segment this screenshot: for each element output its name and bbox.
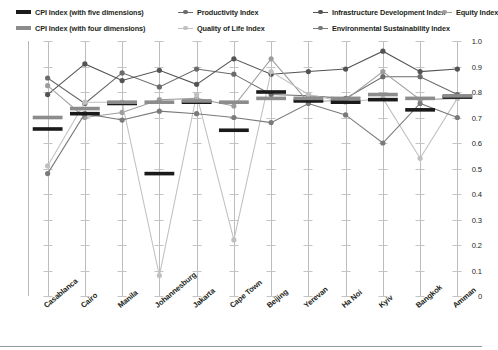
legend-line-marker-icon [178,9,193,16]
data-point [45,171,50,176]
data-point [157,68,162,73]
y-tick-label: 0.8 [458,88,482,97]
y-tick-label: 1.0 [458,37,482,46]
data-point [269,120,274,125]
data-point [45,92,50,97]
legend-item-2[interactable]: Infrastructure Development Index [313,6,445,18]
data-point [82,100,87,105]
data-point [418,156,423,161]
plot-area: 1.00.90.80.70.60.50.40.30.20.10 Casablan… [0,33,482,350]
data-point [194,92,199,97]
data-point [157,273,162,278]
plot-frame [28,41,476,296]
legend-bar-swatch-icon [16,26,31,29]
data-point [120,78,125,83]
legend-item-label: Infrastructure Development Index [332,8,445,17]
data-point [380,69,385,74]
data-point [306,69,311,74]
cpi-bar-marker [33,116,63,120]
legend-item-label: Equity Index [456,8,498,17]
data-point [380,140,385,145]
data-point [418,101,423,106]
data-point [306,92,311,97]
data-point [231,103,236,108]
data-point [45,75,50,80]
data-point [231,72,236,77]
data-point [45,163,50,168]
y-tick-label: 0.5 [458,164,482,173]
cpi-bar-marker [107,100,137,104]
cpi-bar-marker [182,99,212,103]
legend-item-label: Environmental Sustainability Index [332,24,450,33]
data-point [157,84,162,89]
cpi-bar-marker [405,97,435,101]
data-point [380,74,385,79]
cpi-bar-marker [368,98,398,102]
series-line [48,59,458,118]
legend-item-label: Productivity Index [197,8,258,17]
cpi-bar-marker [405,108,435,112]
data-point [269,56,274,61]
legend-item-label: Quality of Life Index [197,24,265,33]
cpi-bar-marker [219,100,249,104]
data-point [418,69,423,74]
y-tick-label: 0.1 [458,266,482,275]
data-point [231,56,236,61]
cpi-bar-marker [256,90,286,94]
series-cpi-index-with-five-dimensions [33,90,473,175]
y-tick-label: 0.7 [458,113,482,122]
cpi-bar-marker [70,112,100,116]
data-point [120,117,125,122]
cpi-bar-marker [368,93,398,97]
series-infrastructure-development-index [45,49,460,98]
legend-item-0[interactable]: CPI Index (with five dimensions) [16,6,144,18]
data-point [157,109,162,114]
data-point [380,49,385,54]
legend-line-marker-icon [313,25,328,32]
cpi-bar-marker [331,97,361,101]
series-line [48,51,458,94]
chart-legend: CPI Index (with five dimensions)Producti… [0,0,482,33]
legend-item-label: CPI Index (with four dimensions) [35,24,145,33]
y-tick-label: 0.6 [458,139,482,148]
y-tick-label: 0.2 [458,241,482,250]
data-point [82,61,87,66]
cpi-bar-marker [70,107,100,111]
cpi-bar-marker [219,128,249,132]
cpi-bar-marker [293,97,323,101]
bottom-rule [0,346,482,347]
data-point [343,66,348,71]
data-point [231,237,236,242]
data-point [194,82,199,87]
y-tick-label: 0.9 [458,62,482,71]
y-tick-label: 0.4 [458,190,482,199]
legend-line-marker-icon [178,25,193,32]
data-point [45,83,50,88]
cpi-bar-marker [144,100,174,104]
y-tick-label: 0.3 [458,215,482,224]
data-point [194,111,199,116]
cpi-bar-marker [331,100,361,104]
legend-item-label: CPI Index (with five dimensions) [35,8,144,17]
series-canvas [29,41,476,296]
legend-line-marker-icon [313,9,328,16]
legend-line-marker-icon [437,9,452,16]
series-environmental-sustainability-index [45,101,460,176]
data-point [194,66,199,71]
data-point [269,69,274,74]
data-point [418,74,423,79]
series-equity-index [45,56,460,120]
cpi-bar-marker [144,172,174,176]
legend-bar-swatch-icon [16,10,31,13]
data-point [343,112,348,117]
legend-item-1[interactable]: Productivity Index [178,6,258,18]
cpi-bar-marker [33,127,63,131]
data-point [120,70,125,75]
data-point [231,115,236,120]
legend-item-3[interactable]: Equity Index [437,6,498,18]
cpi-bar-marker [256,97,286,101]
